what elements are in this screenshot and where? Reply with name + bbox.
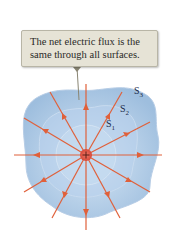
label-s2: S2 (120, 103, 129, 117)
callout-text-line1: The net electric flux is the (30, 35, 153, 48)
label-s3: S3 (134, 85, 143, 99)
callout-box: The net electric flux is the same throug… (21, 30, 158, 67)
callout-text-line2: same through all surfaces. (30, 48, 153, 61)
label-s1: S1 (106, 118, 115, 132)
